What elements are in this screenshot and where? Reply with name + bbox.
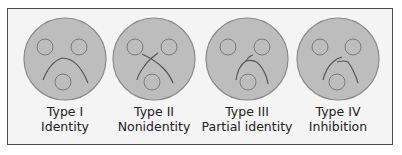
well-right bbox=[71, 39, 87, 55]
well-left bbox=[127, 39, 143, 55]
panel-type-iii-diagram bbox=[206, 18, 288, 100]
well-right bbox=[161, 39, 177, 55]
label-type-ii: Type II Nonidentity bbox=[104, 104, 204, 134]
label-type-iii: Type III Partial identity bbox=[197, 104, 297, 134]
label-type-iv: Type IV Inhibition bbox=[288, 104, 388, 134]
panel-type-iv-diagram bbox=[297, 18, 379, 100]
well-bottom bbox=[240, 74, 256, 90]
label-type-i: Type I Identity bbox=[15, 104, 115, 134]
well-left bbox=[312, 39, 328, 55]
type-description: Partial identity bbox=[197, 119, 297, 134]
panel-type-ii-diagram bbox=[113, 18, 195, 100]
well-bottom bbox=[55, 74, 71, 90]
type-description: Nonidentity bbox=[104, 119, 204, 134]
well-right bbox=[345, 39, 361, 55]
type-label: Type II bbox=[104, 104, 204, 119]
type-description: Identity bbox=[15, 119, 115, 134]
well-left bbox=[37, 39, 53, 55]
panel-type-i-diagram bbox=[24, 18, 106, 100]
type-description: Inhibition bbox=[288, 119, 388, 134]
well-bottom bbox=[329, 74, 345, 90]
type-label: Type IV bbox=[288, 104, 388, 119]
type-label: Type III bbox=[197, 104, 297, 119]
type-label: Type I bbox=[15, 104, 115, 119]
well-right bbox=[254, 39, 270, 55]
well-left bbox=[220, 39, 236, 55]
well-bottom bbox=[144, 74, 160, 90]
